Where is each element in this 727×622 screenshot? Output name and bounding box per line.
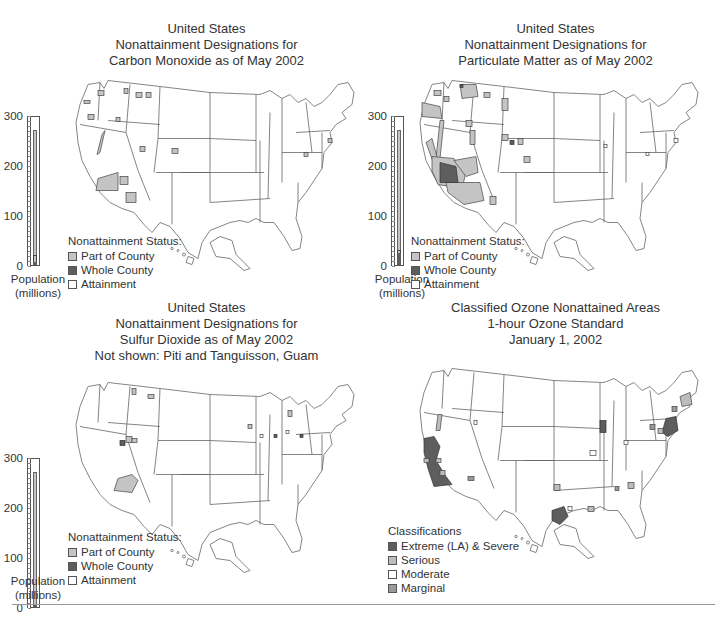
title-line: United States (384, 21, 727, 37)
minor-tick (28, 558, 31, 559)
legend-extreme-severe: Extreme (LA) & Severe (401, 539, 519, 553)
minor-tick (392, 221, 395, 222)
minor-tick (28, 478, 31, 479)
minor-tick (392, 121, 395, 122)
minor-tick (28, 261, 31, 262)
title-line: Carbon Monoxide as of May 2002 (50, 53, 363, 69)
minor-tick (28, 568, 31, 569)
minor-tick (392, 151, 395, 152)
legend: Classifications Extreme (LA) & Severe Se… (388, 524, 519, 595)
population-bar: 300 200 100 0 (0, 116, 60, 266)
minor-tick (28, 181, 31, 182)
minor-tick (28, 201, 31, 202)
tick-300: 300 (368, 110, 387, 122)
legend-attainment: Attainment (81, 573, 136, 587)
minor-tick (392, 131, 395, 132)
minor-tick (28, 518, 31, 519)
minor-tick (28, 136, 31, 137)
minor-tick (28, 186, 31, 187)
minor-tick (392, 211, 395, 212)
minor-tick (28, 523, 31, 524)
minor-tick (28, 266, 31, 267)
minor-tick (28, 126, 31, 127)
minor-tick (28, 196, 31, 197)
panel-title: Classified Ozone Nonattained Areas 1-hou… (384, 300, 727, 348)
minor-tick (28, 151, 31, 152)
minor-tick (28, 533, 31, 534)
population-bar-frame (30, 116, 40, 266)
minor-tick (28, 146, 31, 147)
panel-title: United States Nonattainment Designations… (50, 300, 363, 364)
minor-tick (28, 458, 31, 459)
legend-whole-county: Whole County (424, 263, 496, 277)
minor-tick (28, 488, 31, 489)
minor-tick (28, 236, 31, 237)
minor-tick (28, 161, 31, 162)
population-bar-frame (394, 116, 404, 266)
legend-whole-county: Whole County (81, 559, 153, 573)
legend-attainment: Attainment (81, 277, 136, 291)
legend-title: Nonattainment Status: (411, 234, 525, 248)
minor-tick (392, 236, 395, 237)
minor-tick (392, 266, 395, 267)
minor-tick (28, 221, 31, 222)
minor-tick (28, 176, 31, 177)
minor-tick (28, 463, 31, 464)
minor-tick (392, 156, 395, 157)
minor-tick (392, 206, 395, 207)
minor-tick (392, 176, 395, 177)
minor-tick (392, 181, 395, 182)
minor-tick (392, 231, 395, 232)
minor-tick (28, 241, 31, 242)
minor-tick (28, 538, 31, 539)
panel-title: United States Nonattainment Designations… (384, 21, 727, 69)
minor-tick (28, 553, 31, 554)
panel-sulfur-dioxide: United States Nonattainment Designations… (0, 302, 363, 602)
minor-tick (28, 473, 31, 474)
legend-serious: Serious (401, 553, 440, 567)
minor-tick (28, 231, 31, 232)
minor-tick (28, 508, 31, 509)
title-line: 1-hour Ozone Standard (384, 316, 727, 332)
minor-tick (28, 226, 31, 227)
minor-tick (28, 251, 31, 252)
minor-tick (28, 563, 31, 564)
minor-tick (28, 498, 31, 499)
minor-tick (28, 483, 31, 484)
tick-300: 300 (4, 110, 23, 122)
minor-tick (28, 131, 31, 132)
minor-tick (392, 226, 395, 227)
minor-tick (392, 126, 395, 127)
tick-200: 200 (4, 160, 23, 172)
minor-tick (392, 216, 395, 217)
legend-whole-county: Whole County (81, 263, 153, 277)
minor-tick (28, 191, 31, 192)
minor-tick (392, 191, 395, 192)
population-label: Population (millions) (8, 272, 68, 300)
minor-tick (28, 528, 31, 529)
minor-tick (392, 201, 395, 202)
minor-tick (28, 246, 31, 247)
minor-tick (392, 251, 395, 252)
title-line: January 1, 2002 (384, 332, 727, 348)
title-line: Nonattainment Designations for (384, 37, 727, 53)
population-label: Population (millions) (8, 574, 68, 602)
tick-200: 200 (4, 502, 23, 514)
minor-tick (28, 206, 31, 207)
title-line: Classified Ozone Nonattained Areas (384, 300, 727, 316)
panel-title: United States Nonattainment Designations… (50, 21, 363, 69)
legend-title: Classifications (388, 524, 519, 538)
legend-part-of-county: Part of County (81, 545, 155, 559)
minor-tick (28, 256, 31, 257)
minor-tick (28, 468, 31, 469)
minor-tick (28, 171, 31, 172)
minor-tick (392, 171, 395, 172)
tick-300: 300 (4, 452, 23, 464)
minor-tick (28, 608, 31, 609)
minor-tick (28, 166, 31, 167)
minor-tick (392, 186, 395, 187)
minor-tick (28, 493, 31, 494)
legend-marginal: Marginal (401, 581, 445, 595)
minor-tick (392, 246, 395, 247)
legend-part-of-county: Part of County (424, 249, 498, 263)
